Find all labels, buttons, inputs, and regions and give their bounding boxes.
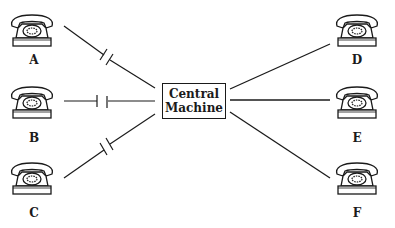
line-d: [230, 44, 330, 89]
central-machine-line2: Machine: [165, 101, 223, 115]
phone-label-a: A: [29, 53, 38, 67]
phone-label-d: D: [352, 53, 362, 67]
line-c: [64, 114, 155, 178]
central-machine-line1: Central: [169, 87, 219, 101]
telephone-icon-d: [337, 15, 378, 46]
telephone-icon-c: [12, 163, 53, 194]
line-f: [230, 112, 330, 178]
telephone-icon-a: [12, 15, 53, 46]
telephone-icon-e: [337, 87, 378, 118]
telephone-icon-f: [337, 163, 378, 194]
phone-label-c: C: [29, 206, 39, 220]
phone-label-e: E: [352, 131, 361, 145]
phone-label-f: F: [353, 206, 362, 220]
phone-label-b: B: [29, 131, 39, 145]
telephone-icon-b: [12, 87, 53, 118]
central-machine-box: Central Machine: [162, 83, 226, 119]
line-b: [64, 95, 155, 108]
line-a: [64, 26, 155, 88]
